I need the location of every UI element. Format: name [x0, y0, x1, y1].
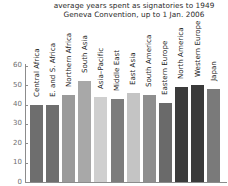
bar-label-e-and-s-africa: E. and S. Africa — [49, 42, 56, 96]
bar-group: North America — [175, 60, 188, 182]
x-axis-line — [25, 182, 227, 183]
bar-e-and-s-africa[interactable] — [46, 105, 59, 182]
bar-group: South Asia — [78, 60, 91, 182]
bar-south-america[interactable] — [143, 95, 156, 182]
bar-south-asia[interactable] — [78, 81, 91, 182]
bar-label-middle-east: Middle East — [113, 50, 120, 91]
y-tick-label-10: 10 — [4, 159, 22, 166]
bar-middle-east[interactable] — [111, 99, 124, 182]
bar-group: Western Europe — [191, 60, 204, 182]
bar-group: E. and S. Africa — [46, 60, 59, 182]
bar-label-central-africa: Central Africa — [33, 48, 40, 97]
bar-western-europe[interactable] — [191, 85, 204, 182]
bar-label-asia-pacific: Asia–Pacific — [97, 48, 104, 89]
y-tick-label-60: 60 — [4, 62, 22, 69]
bar-northern-africa[interactable] — [62, 95, 75, 182]
bar-label-eastern-europe: Eastern Europe — [162, 40, 169, 94]
bar-label-north-america: North America — [178, 28, 185, 80]
y-tick-label-0: 0 — [4, 179, 22, 186]
chart-title: average years spent as signatories to 19… — [42, 1, 226, 19]
bar-label-south-america: South America — [145, 35, 152, 87]
bar-group: Northern Africa — [62, 60, 75, 182]
bar-label-western-europe: Western Europe — [194, 21, 201, 78]
bar-label-south-asia: South Asia — [81, 35, 88, 73]
bar-chart: average years spent as signatories to 19… — [0, 0, 228, 186]
bar-north-america[interactable] — [175, 87, 188, 182]
bar-label-northern-africa: Northern Africa — [65, 33, 72, 87]
bar-japan[interactable] — [207, 89, 220, 182]
bar-group: Central Africa — [30, 60, 43, 182]
bar-label-japan: Japan — [210, 61, 217, 81]
bar-label-east-asia: East Asia — [129, 52, 136, 85]
bar-asia-pacific[interactable] — [94, 97, 107, 182]
y-tick-0 — [25, 182, 28, 183]
bar-central-africa[interactable] — [30, 105, 43, 182]
bar-group: Japan — [207, 60, 220, 182]
y-tick-label-40: 40 — [4, 101, 22, 108]
bar-eastern-europe[interactable] — [159, 103, 172, 182]
bar-group: Middle East — [111, 60, 124, 182]
y-tick-label-20: 20 — [4, 140, 22, 147]
bar-group: Eastern Europe — [159, 60, 172, 182]
y-tick-label-30: 30 — [4, 120, 22, 127]
y-tick-label-50: 50 — [4, 82, 22, 89]
bar-group: Asia–Pacific — [94, 60, 107, 182]
bar-group: South America — [143, 60, 156, 182]
bar-group: East Asia — [127, 60, 140, 182]
plot-area: Central AfricaE. and S. AfricaNorthern A… — [27, 60, 227, 182]
bar-east-asia[interactable] — [127, 93, 140, 182]
